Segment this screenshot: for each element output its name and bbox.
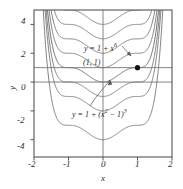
lower-eq-prefix: y = 1 + (x <box>72 110 105 119</box>
upper-eq-exponent: 6 <box>114 42 117 48</box>
x-tick-neg1: -1 <box>63 160 71 169</box>
y-tick-0: 0 <box>21 83 26 92</box>
lower-eq-mid: − 1) <box>108 110 124 119</box>
x-tick-1: 1 <box>135 160 140 169</box>
x-tick-neg2: -2 <box>28 160 36 169</box>
y-tick-2: 2 <box>21 50 26 59</box>
x-tick-2: 2 <box>168 160 173 169</box>
annotation-upper-equation: y = 1 + x6 <box>84 42 117 53</box>
figure-plot-curve-family: 4 2 0 -2 -4 -2 -1 0 1 2 x y y = 1 + x6 (… <box>0 0 183 189</box>
y-tick-4: 4 <box>21 17 26 26</box>
y-tick-neg4: -4 <box>17 142 25 151</box>
annotation-point-label: (1, 1) <box>83 59 100 67</box>
lower-eq-cube: 3 <box>124 108 127 114</box>
y-axis-label: y <box>8 86 17 90</box>
marked-point-1-1 <box>135 65 140 70</box>
x-axis-label: x <box>101 174 105 183</box>
x-tick-0: 0 <box>101 160 106 169</box>
annotation-lower-equation: y = 1 + (x2 − 1)3 <box>72 108 127 119</box>
y-tick-neg2: -2 <box>17 116 25 125</box>
upper-eq-text: y = 1 + x <box>84 44 114 53</box>
